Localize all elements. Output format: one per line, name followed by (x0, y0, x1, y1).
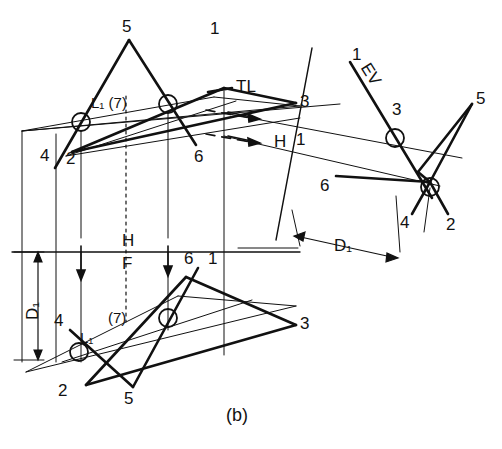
transfer-rays-to-auxiliary (224, 113, 462, 186)
auxiliary-view-plane-lines (336, 104, 472, 214)
dimension-extension-lines-aux (238, 196, 400, 252)
dimension-d1-front-label: D₁ (24, 302, 41, 320)
front-view-label-4: 4 (54, 312, 63, 329)
fold-line-h1-label-h: H (274, 133, 286, 150)
auxiliary-view-label-6: 6 (320, 177, 329, 194)
front-view-label-5: 5 (124, 390, 133, 407)
fold-line-h1-label-1: 1 (296, 131, 305, 148)
top-view-label-l1-7: L₁ (7) (91, 95, 127, 110)
front-view-label-7: (7) (108, 310, 126, 325)
top-view-label-2: 2 (66, 150, 75, 167)
projector-arrow-left (77, 246, 85, 280)
fold-line-hf-label-h: H (122, 232, 134, 249)
front-view-plane-triangle (86, 277, 296, 385)
top-view-label-5: 5 (122, 18, 131, 35)
top-view-thin-plane (22, 97, 300, 156)
front-view-label-6: 6 (184, 250, 193, 267)
front-view-label-2: 2 (58, 382, 67, 399)
front-view-label-1: 1 (208, 250, 217, 267)
top-view-label-1: 1 (210, 20, 219, 37)
top-view-label-tl: TL (236, 78, 256, 95)
figure-caption: (b) (226, 406, 248, 424)
projector-arrow-right (164, 246, 172, 276)
top-view-label-6: 6 (194, 148, 203, 165)
top-view-label-4: 4 (40, 147, 49, 164)
dimension-d1-aux-label: D₁ (334, 237, 352, 254)
auxiliary-view-label-1: 1 (352, 46, 361, 63)
front-view-label-3: 3 (300, 315, 309, 332)
front-view-label-l1: L₁ (80, 330, 93, 345)
auxiliary-view-label-3: 3 (392, 101, 401, 118)
top-view-label-3: 3 (300, 93, 309, 110)
figure-canvas: 5 1 4 2 6 3 L₁ (7) TL H F H 1 D₁ D₁ 4 2 … (0, 0, 502, 449)
fold-line-hf-label-f: F (122, 255, 132, 272)
auxiliary-view-label-4: 4 (400, 214, 409, 231)
auxiliary-view-label-5: 5 (476, 90, 485, 107)
auxiliary-view-label-2: 2 (446, 216, 455, 233)
drawing-svg (0, 0, 502, 449)
